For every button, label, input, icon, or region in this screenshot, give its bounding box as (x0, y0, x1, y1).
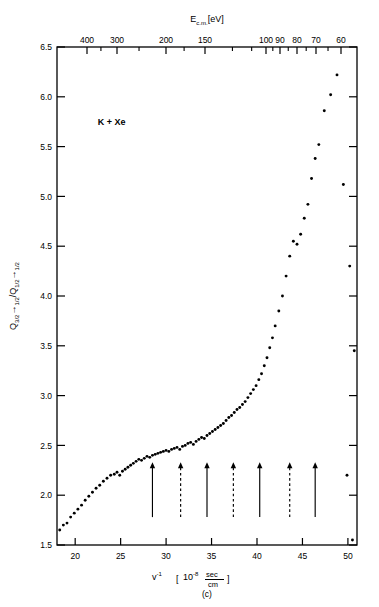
data-point (353, 349, 356, 352)
bottom-axis-bracket-close: ] (227, 574, 230, 584)
data-point (181, 445, 184, 448)
bottom-axis-bracket-open: [ (176, 574, 179, 584)
data-point (216, 426, 219, 429)
data-point (285, 275, 288, 278)
data-point (271, 336, 274, 339)
bottom-tick-label: 40 (252, 551, 262, 561)
data-point (236, 408, 239, 411)
data-point (102, 480, 105, 483)
threshold-arrow-head (312, 462, 317, 468)
data-point (260, 372, 263, 375)
data-point (165, 449, 168, 452)
top-tick-label: 60 (336, 35, 346, 45)
data-point (121, 470, 124, 473)
data-point (109, 474, 112, 477)
data-point (189, 441, 192, 444)
left-tick-label: 4.0 (40, 291, 52, 301)
data-point (255, 384, 258, 387)
data-point (348, 265, 351, 268)
data-point (310, 177, 313, 180)
left-axis-ticks (57, 47, 65, 545)
data-point (346, 474, 349, 477)
data-point (195, 440, 198, 443)
data-point (303, 217, 306, 220)
bottom-axis-factor-exp: -8 (193, 571, 199, 577)
left-tick-label: 3.0 (40, 391, 52, 401)
top-axis-title-sub: c.m. (196, 20, 208, 26)
left-axis-title-text: Q3/2→1/2/Q1/2→1/2 (8, 261, 20, 330)
left-axis-arrow-1: → (8, 306, 18, 315)
data-point (197, 438, 200, 441)
data-point (288, 255, 291, 258)
data-point (266, 356, 269, 359)
threshold-arrow-head (231, 462, 236, 468)
data-point (151, 454, 154, 457)
data-point (274, 324, 277, 327)
bottom-axis-ticks (75, 538, 348, 545)
data-point (66, 522, 69, 525)
data-point (118, 474, 121, 477)
data-point (170, 448, 173, 451)
bottom-axis-factor: 10 (183, 572, 193, 582)
data-point (159, 451, 162, 454)
bottom-axis-unit-denominator: cm (208, 580, 218, 589)
left-axis-arrow-2: → (8, 270, 18, 279)
threshold-arrow-head (204, 462, 209, 468)
data-point (296, 243, 299, 246)
data-point (323, 109, 326, 112)
data-point (225, 419, 228, 422)
left-tick-label: 1.5 (40, 540, 52, 550)
data-point (98, 484, 101, 487)
panel-label: (c) (202, 589, 212, 599)
data-point (219, 424, 222, 427)
data-point (342, 183, 345, 186)
data-point (230, 414, 233, 417)
data-point (143, 457, 146, 460)
bottom-tick-label: 20 (70, 551, 80, 561)
left-tick-label: 2.5 (40, 441, 52, 451)
data-point (80, 504, 83, 507)
data-point (241, 403, 244, 406)
top-axis-ticks (87, 47, 341, 54)
left-tick-label: 5.0 (40, 192, 52, 202)
figure-panel: 40030020015010090807060 20253035404550 1… (0, 0, 379, 607)
top-tick-label: 80 (292, 35, 302, 45)
bottom-tick-label: 45 (298, 551, 308, 561)
data-point (58, 529, 61, 532)
left-axis-tick-labels: 1.52.02.53.03.54.04.55.05.56.06.5 (40, 42, 52, 550)
data-point (200, 436, 203, 439)
data-point (203, 437, 206, 440)
bottom-axis-unit-numerator: sec (206, 570, 218, 579)
data-point (211, 430, 214, 433)
left-axis-q1: Q (8, 323, 18, 330)
data-point (281, 295, 284, 298)
top-tick-label: 150 (198, 35, 212, 45)
data-point (87, 495, 90, 498)
data-point (95, 487, 98, 490)
data-point (277, 309, 280, 312)
left-axis-q2: Q (8, 288, 18, 295)
data-point (246, 396, 249, 399)
data-point (186, 442, 189, 445)
data-point (113, 473, 116, 476)
left-tick-label: 6.5 (40, 42, 52, 52)
bottom-tick-label: 50 (343, 551, 353, 561)
data-point (268, 346, 271, 349)
left-tick-label: 2.0 (40, 490, 52, 500)
right-axis-ticks (349, 47, 357, 545)
threshold-arrows (150, 462, 318, 517)
data-point (351, 539, 354, 542)
threshold-arrow-head (150, 462, 155, 468)
data-point (84, 499, 87, 502)
bottom-tick-label: 35 (207, 551, 217, 561)
data-point (184, 444, 187, 447)
data-point (69, 516, 72, 519)
data-point (263, 364, 266, 367)
left-axis-q2-sub2: 1/2 (14, 261, 20, 270)
scatter-plot: 40030020015010090807060 20253035404550 1… (0, 0, 379, 607)
top-axis-title-unit: [eV] (208, 14, 224, 24)
data-point (317, 143, 320, 146)
data-point (154, 453, 157, 456)
data-point (299, 233, 302, 236)
left-axis-title: Q3/2→1/2/Q1/2→1/2 (8, 261, 20, 330)
